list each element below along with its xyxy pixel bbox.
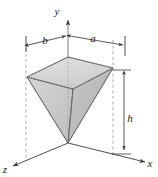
pyramid-solid [27,57,113,143]
dimension-label-a: a [90,32,96,44]
z-axis-line [13,143,68,166]
dimension-label-b: b [42,34,48,46]
pyramid-diagram: y x z b a h [0,0,158,177]
y-axis-label: y [54,5,60,17]
z-axis-label: z [2,163,8,175]
figure-container: y x z b a h [0,0,158,177]
width-dimension-group [26,36,125,56]
x-axis-line [68,143,145,162]
x-axis-label: x [147,157,153,169]
dim-arrow-a [70,36,123,45]
dimension-label-h: h [127,112,133,124]
